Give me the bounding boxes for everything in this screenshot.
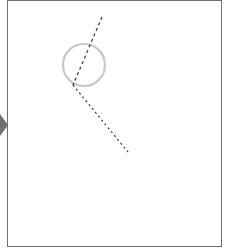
highlight-circle: [63, 44, 105, 86]
diagram-overlay: [0, 0, 227, 250]
dashed-line-upper: [73, 17, 102, 85]
chevron-right-icon[interactable]: [0, 114, 8, 136]
dashed-line-lower: [73, 85, 128, 152]
